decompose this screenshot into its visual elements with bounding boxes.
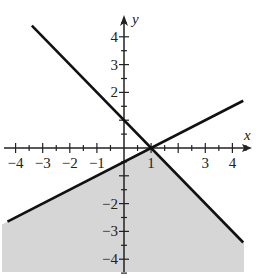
- x-tick-label: −3: [35, 155, 51, 171]
- x-tick-label: −2: [62, 155, 78, 171]
- y-tick-label: 2: [111, 84, 119, 100]
- y-tick-label: −4: [102, 251, 118, 267]
- x-tick-label: 1: [147, 155, 155, 171]
- x-tick-label: 4: [229, 155, 237, 171]
- x-tick-label: −1: [89, 155, 105, 171]
- y-tick-label: 3: [111, 57, 119, 73]
- y-tick-label: −2: [102, 196, 118, 212]
- x-axis-label: x: [243, 127, 251, 143]
- x-tick-label: 3: [202, 155, 210, 171]
- y-tick-label: −3: [102, 223, 118, 239]
- y-tick-label: 4: [111, 29, 119, 45]
- y-axis-label: y: [130, 11, 139, 27]
- inequality-graph: −4−3−2−1134432−2−3−4 x y: [0, 0, 258, 278]
- x-tick-label: −4: [8, 155, 24, 171]
